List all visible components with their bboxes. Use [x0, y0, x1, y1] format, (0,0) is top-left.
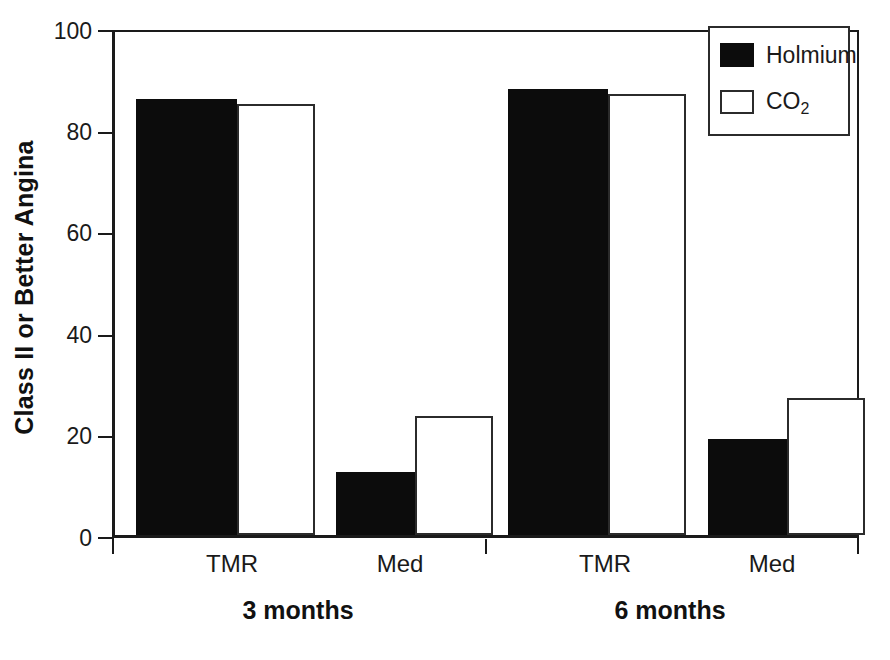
y-tick-label-60: 60: [34, 222, 92, 245]
y-axis-title: Class II or Better Angina: [10, 38, 39, 538]
group-label-6months: 6 months: [540, 596, 800, 625]
x-label-3months-med: Med: [320, 550, 480, 578]
legend-label-co2-subscript: 2: [801, 100, 810, 117]
x-tick-mark-right: [857, 539, 859, 554]
y-tick-label-40-wrap: 40: [22, 324, 92, 347]
bar-6months-tmr-holmium: [508, 89, 608, 535]
y-tick-label-20: 20: [34, 425, 92, 448]
x-label-6months-med: Med: [692, 550, 852, 578]
bar-3months-med-holmium: [336, 472, 415, 535]
bar-3months-tmr-co2: [237, 104, 315, 535]
bar-6months-tmr-co2: [608, 94, 686, 535]
x-label-3months-tmr: TMR: [152, 550, 312, 578]
y-tick-label-80-wrap: 80: [22, 121, 92, 144]
x-tick-mark-middle: [485, 539, 487, 554]
x-tick-mark-left: [112, 539, 114, 554]
y-tick-label-60-wrap: 60: [22, 222, 92, 245]
bar-3months-med-co2: [415, 416, 493, 535]
y-tick-label-0-wrap: 0: [22, 527, 92, 550]
y-tick-label-100: 100: [34, 20, 92, 43]
bar-chart-figure: Class II or Better Angina 100 80 60 40 2…: [0, 0, 890, 660]
y-tick-label-0: 0: [34, 527, 92, 550]
bar-6months-med-holmium: [708, 439, 787, 535]
legend-item-co2: CO2: [720, 85, 809, 119]
legend-swatch-holmium-icon: [720, 43, 754, 67]
bar-6months-med-co2: [787, 398, 865, 535]
group-label-3months: 3 months: [168, 596, 428, 625]
bar-3months-tmr-holmium: [136, 99, 237, 535]
legend-item-holmium: Holmium: [720, 38, 857, 72]
y-tick-label-100-wrap: 100: [22, 20, 92, 43]
y-tick-label-40: 40: [34, 324, 92, 347]
legend-label-holmium: Holmium: [766, 43, 857, 67]
y-tick-label-20-wrap: 20: [22, 425, 92, 448]
legend-label-co2: CO2: [766, 89, 809, 116]
x-label-6months-tmr: TMR: [525, 550, 685, 578]
legend-label-co2-text: CO: [766, 88, 801, 114]
legend: Holmium CO2: [708, 26, 850, 136]
legend-swatch-co2-icon: [720, 90, 754, 114]
y-tick-label-80: 80: [34, 121, 92, 144]
